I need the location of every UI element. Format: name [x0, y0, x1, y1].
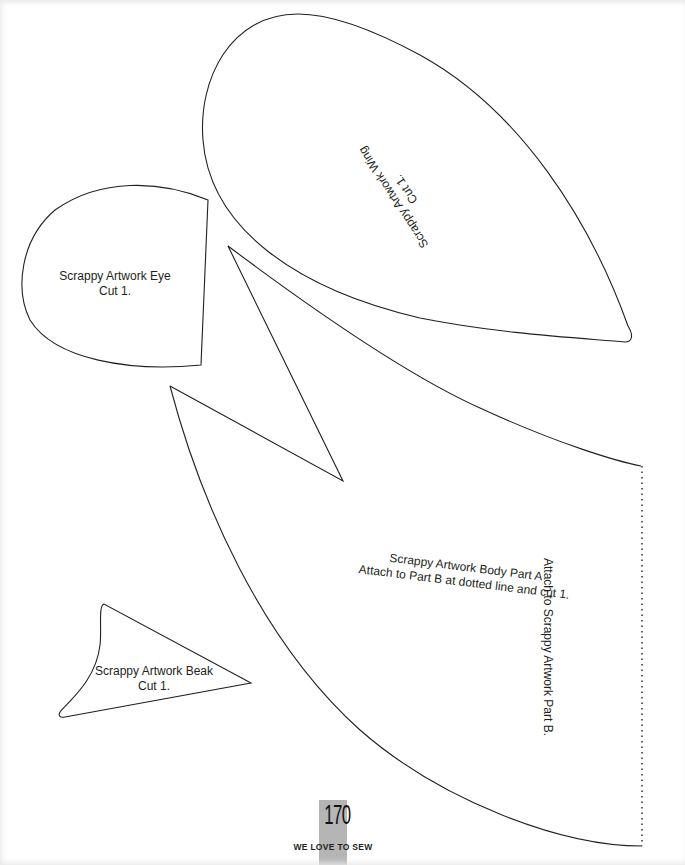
- beak-pattern-piece: [59, 604, 251, 717]
- attach-part-b-label: Attach to Scrappy Artwork Part B.: [541, 527, 555, 767]
- body-pattern-piece: [170, 246, 642, 846]
- eye-instruction: Cut 1.: [40, 284, 190, 299]
- notch-pattern-piece: [170, 246, 343, 481]
- page-number: 170: [324, 800, 341, 830]
- book-title: WE LOVE TO SEW: [283, 842, 383, 852]
- wing-pattern-piece: [202, 14, 631, 342]
- beak-name: Scrappy Artwork Beak: [84, 664, 224, 679]
- beak-label: Scrappy Artwork Beak Cut 1.: [84, 664, 224, 694]
- eye-name: Scrappy Artwork Eye: [40, 269, 190, 284]
- beak-instruction: Cut 1.: [84, 679, 224, 694]
- eye-label: Scrappy Artwork Eye Cut 1.: [40, 269, 190, 299]
- pattern-shapes: [0, 0, 685, 865]
